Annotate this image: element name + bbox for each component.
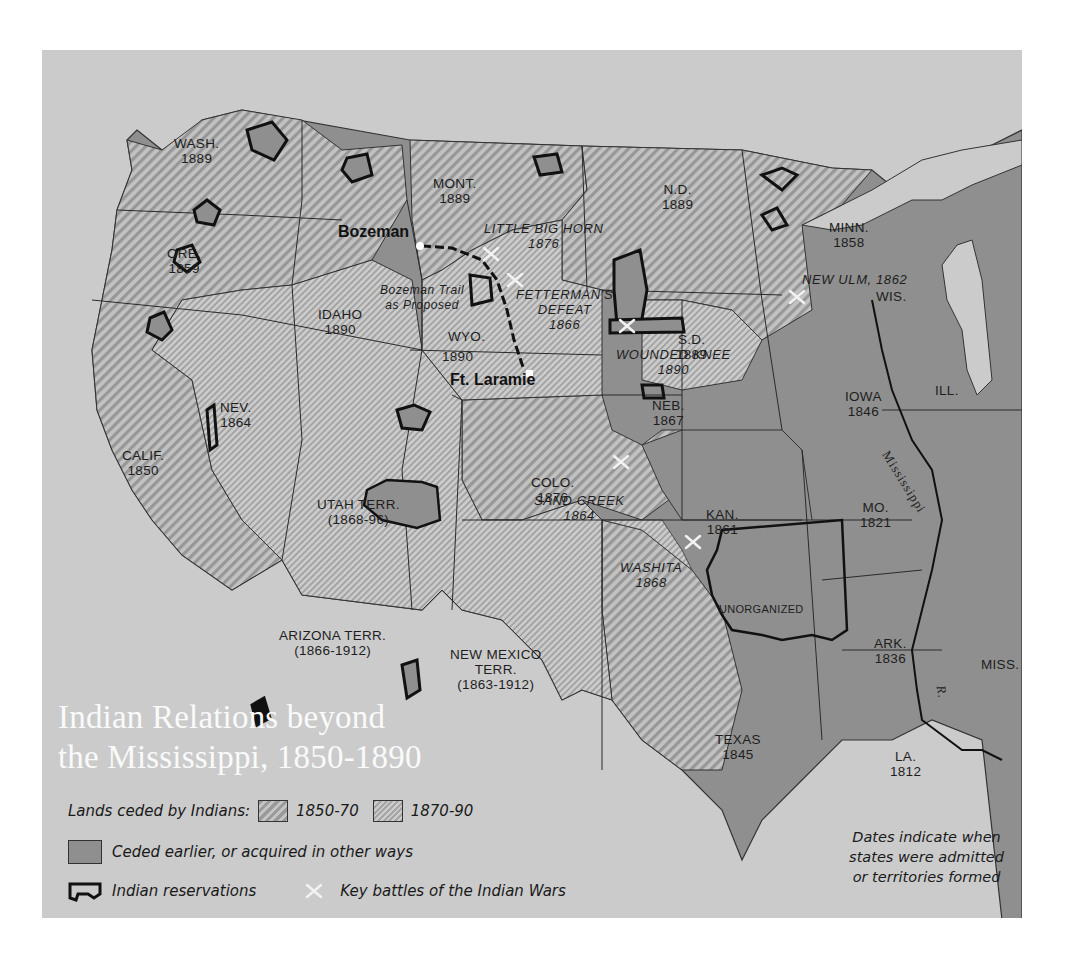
state-label-mont: MONT.1889 (433, 176, 477, 206)
dates-note: Dates indicate when states were admitted… (849, 827, 1004, 887)
crossed-sabers-legend-icon (302, 881, 326, 901)
legend-ceded-earlier-label: Ceded earlier, or acquired in other ways (112, 843, 413, 861)
state-label-nev: NEV.1864 (220, 400, 251, 430)
legend-period-2: 1870-90 (411, 802, 474, 820)
battle-label-sand-creek: SAND CREEK1864 (534, 493, 625, 523)
battle-label-little-big-horn: LITTLE BIG HORN1876 (484, 221, 604, 251)
river-label-r: R. (933, 684, 951, 700)
state-label-mo: MO.1821 (860, 500, 891, 530)
hatch-1870-90-swatch-icon (373, 800, 403, 822)
state-label-minn: MINN.1858 (829, 220, 869, 250)
legend-lands-ceded-label: Lands ceded by Indians: (68, 802, 250, 820)
legend-period-1: 1850-70 (296, 802, 359, 820)
state-label-calif: CALIF.1850 (122, 448, 164, 478)
state-label-neb: NEB.1867 (652, 398, 685, 428)
ceded-earlier-swatch-icon (68, 840, 102, 864)
state-label-new-mexico-terr: NEW MEXICOTERR.(1863-1912) (450, 647, 542, 692)
state-label-utah-terr: UTAH TERR.(1868-96) (317, 497, 400, 527)
state-label-unorganized: UNORGANIZED (719, 602, 804, 617)
state-label-miss: MISS. (981, 657, 1019, 672)
legend-lands-ceded: Lands ceded by Indians: 1850-70 1870-90 (68, 800, 473, 822)
map-panel: WASH.1889 ORE.1859 CALIF.1850 NEV.1864 I… (42, 50, 1022, 918)
state-label-arizona-terr: ARIZONA TERR.(1866-1912) (279, 628, 386, 658)
state-label-ill: ILL. (935, 383, 959, 398)
hatch-1850-70-swatch-icon (258, 800, 288, 822)
state-label-ore: ORE.1859 (167, 246, 201, 276)
legend-reservations: Indian reservations Key battles of the I… (68, 880, 566, 902)
legend-reservations-label: Indian reservations (112, 882, 256, 900)
city-label-bozeman: Bozeman (338, 223, 409, 241)
state-label-wyo: WYO.1890 (448, 329, 485, 364)
map-title: Indian Relations beyond the Mississippi,… (58, 697, 422, 777)
state-label-idaho: IDAHO1890 (318, 307, 362, 337)
bozeman-trail-label: Bozeman Trailas Proposed (380, 283, 464, 313)
battle-label-new-ulm: NEW ULM, 1862 (802, 272, 907, 287)
battle-label-wounded-knee: WOUNDED KNEE1890 (616, 347, 731, 377)
state-label-kan: KAN.1861 (706, 507, 739, 537)
battle-label-washita: WASHITA1868 (620, 560, 682, 590)
state-label-ark: ARK.1836 (874, 636, 907, 666)
bozeman-marker (416, 242, 424, 250)
state-label-texas: TEXAS1845 (715, 732, 761, 762)
city-label-ft-laramie: Ft. Laramie (450, 371, 535, 389)
state-label-wash: WASH.1889 (174, 136, 219, 166)
state-label-iowa: IOWA1846 (845, 389, 882, 419)
state-label-la: LA.1812 (890, 749, 921, 779)
state-label-wis: WIS. (876, 289, 906, 304)
battle-label-fettermans-defeat: FETTERMAN'SDEFEAT1866 (516, 287, 613, 332)
state-label-nd: N.D.1889 (662, 182, 693, 212)
legend-battles-label: Key battles of the Indian Wars (340, 882, 566, 900)
legend-ceded-earlier: Ceded earlier, or acquired in other ways (68, 840, 413, 864)
reservation-outline-icon (68, 880, 102, 902)
